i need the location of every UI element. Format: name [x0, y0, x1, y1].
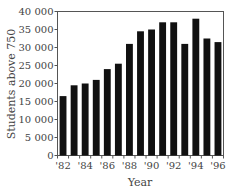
x-tick-label: '82	[55, 160, 70, 171]
bar	[71, 85, 78, 155]
y-tick-label: 10 000	[19, 114, 54, 125]
bar	[82, 84, 89, 156]
y-tick-label: 35 000	[19, 24, 54, 35]
bar	[137, 31, 144, 155]
y-tick-label: 0	[47, 150, 53, 161]
y-tick-label: 5 000	[25, 132, 54, 143]
bar	[159, 22, 166, 155]
y-tick-label: 25 000	[19, 60, 54, 71]
bar	[203, 39, 210, 156]
bar	[215, 42, 222, 155]
x-tick-label: '86	[100, 160, 115, 171]
y-tick-label: 40 000	[19, 6, 54, 17]
y-tick-label: 15 000	[19, 96, 54, 107]
bar-chart: 05 00010 00015 00020 00025 00030 00035 0…	[0, 0, 233, 193]
bar	[115, 64, 122, 156]
bar	[192, 19, 199, 156]
x-axis: '82'84'86'88'90'92'94'96	[55, 156, 225, 171]
y-tick-label: 30 000	[19, 42, 54, 53]
x-tick-label: '88	[122, 160, 137, 171]
bar	[170, 22, 177, 155]
x-tick-label: '92	[166, 160, 181, 171]
bar	[126, 44, 133, 156]
x-tick-label: '90	[144, 160, 159, 171]
x-tick-label: '94	[188, 160, 203, 171]
bar	[104, 69, 111, 155]
y-axis: 05 00010 00015 00020 00025 00030 00035 0…	[19, 6, 58, 161]
bar	[181, 44, 188, 156]
x-tick-label: '96	[210, 160, 225, 171]
y-tick-label: 20 000	[19, 78, 54, 89]
bars	[60, 19, 222, 156]
bar	[60, 96, 67, 155]
bar	[148, 30, 155, 156]
bar	[93, 80, 100, 156]
y-axis-title: Students above 750	[5, 29, 18, 140]
x-tick-label: '84	[77, 160, 92, 171]
x-axis-title: Year	[127, 176, 153, 189]
